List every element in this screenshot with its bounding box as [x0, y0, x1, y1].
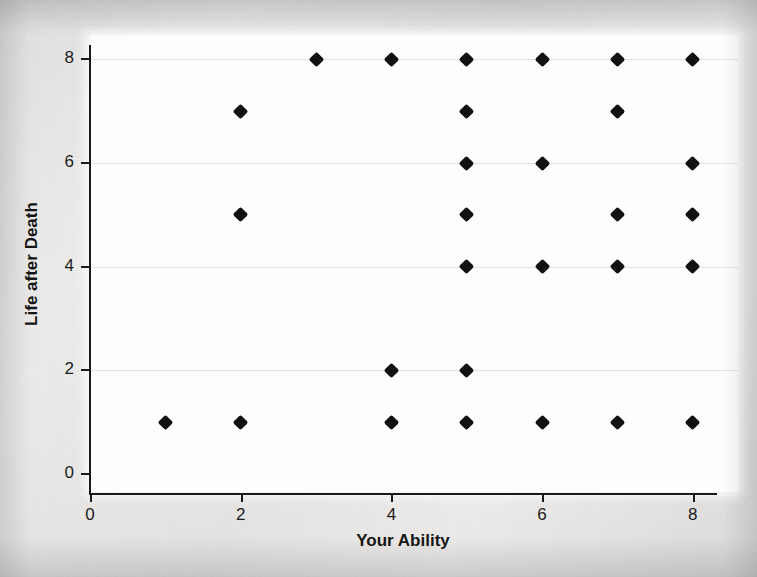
x-axis-tick-label: 6: [522, 505, 562, 525]
data-point: [233, 103, 249, 119]
data-point: [459, 414, 475, 430]
x-axis-tick: [241, 495, 243, 502]
x-axis-tick-label: 4: [371, 505, 411, 525]
y-axis-tick-label: 4: [48, 256, 74, 276]
data-point: [534, 52, 550, 68]
x-axis-tick: [693, 495, 695, 502]
x-axis-line: [89, 493, 717, 495]
gridline: [90, 163, 738, 164]
data-point: [459, 207, 475, 223]
data-point: [459, 259, 475, 275]
data-point: [534, 155, 550, 171]
data-point: [459, 155, 475, 171]
gridline: [90, 370, 738, 371]
scanned-page: 02468 02468 Your Ability Life after Deat…: [0, 0, 757, 577]
y-axis-tick-label: 0: [48, 463, 74, 483]
data-point: [610, 259, 626, 275]
x-axis-tick: [391, 495, 393, 502]
x-axis-tick-label: 2: [221, 505, 261, 525]
scatter-plot-figure: 02468 02468 Your Ability Life after Deat…: [0, 0, 757, 577]
x-axis-tick: [542, 495, 544, 502]
data-point: [158, 414, 174, 430]
data-point: [685, 207, 701, 223]
x-axis-title: Your Ability: [89, 531, 717, 551]
gridline: [90, 59, 738, 60]
data-point: [610, 207, 626, 223]
y-axis-tick: [81, 266, 89, 268]
data-point: [610, 52, 626, 68]
data-point: [459, 103, 475, 119]
x-axis-tick-label: 8: [673, 505, 713, 525]
x-axis-tick-label: 0: [70, 505, 110, 525]
data-point: [459, 52, 475, 68]
y-axis-tick: [81, 58, 89, 60]
data-point: [685, 155, 701, 171]
data-point: [610, 103, 626, 119]
data-point: [610, 414, 626, 430]
data-point: [459, 362, 475, 378]
data-point: [233, 414, 249, 430]
data-point: [534, 259, 550, 275]
data-point: [534, 414, 550, 430]
y-axis-tick-label: 2: [48, 359, 74, 379]
data-point: [384, 414, 400, 430]
x-axis-tick: [90, 495, 92, 502]
data-point: [685, 414, 701, 430]
y-axis-line: [89, 45, 91, 494]
y-axis-tick: [81, 162, 89, 164]
y-axis-tick: [81, 369, 89, 371]
data-point: [384, 52, 400, 68]
plot-area: [90, 36, 738, 492]
data-point: [685, 259, 701, 275]
data-point: [233, 207, 249, 223]
gridline: [90, 267, 738, 268]
data-point: [685, 52, 701, 68]
y-axis-tick-label: 6: [48, 152, 74, 172]
data-point: [384, 362, 400, 378]
y-axis-title: Life after Death: [22, 36, 46, 492]
y-axis-tick-label: 8: [48, 48, 74, 68]
y-axis-tick: [81, 473, 89, 475]
data-point: [308, 52, 324, 68]
